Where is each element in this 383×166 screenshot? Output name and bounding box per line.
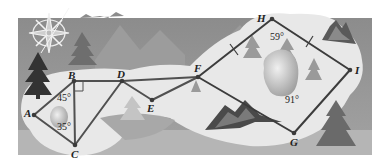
point-H [270, 17, 275, 22]
label-H: H [256, 12, 266, 24]
lake-center-icon [264, 50, 299, 97]
angle-label-G: 91° [285, 94, 299, 105]
label-F: F [193, 62, 202, 74]
label-C: C [71, 148, 79, 160]
label-E: E [146, 102, 154, 114]
point-G [292, 131, 297, 136]
label-A: A [23, 107, 31, 119]
segment-BC [74, 81, 75, 145]
label-I: I [354, 64, 360, 76]
label-D: D [116, 68, 125, 80]
label-G: G [290, 136, 298, 148]
label-B: B [67, 69, 75, 81]
point-I [348, 68, 353, 73]
angle-label-C: 35° [57, 121, 71, 132]
point-F [196, 75, 201, 80]
point-A [32, 113, 37, 118]
angle-label-B: 45° [57, 92, 71, 103]
point-C [73, 143, 78, 148]
map-figure: A B C D E F G H I 45° 35° 59° 91° [0, 0, 383, 166]
map-diagram-svg: A B C D E F G H I 45° 35° 59° 91° [0, 0, 383, 166]
angle-label-H: 59° [270, 31, 284, 42]
